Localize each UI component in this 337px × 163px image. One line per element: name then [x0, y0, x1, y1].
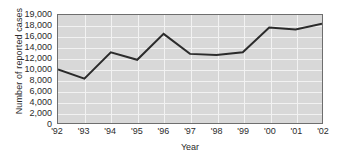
y-axis-tick-label: 8,000 — [0, 76, 52, 85]
line-chart: Number of reported cases 19,00018,00016,… — [0, 0, 337, 163]
x-axis-title: Year — [57, 142, 323, 153]
x-axis-tick-label: '02 — [306, 126, 337, 137]
y-axis-tick-label: 4,000 — [0, 98, 52, 107]
y-axis-tick-label: 16,000 — [0, 32, 52, 41]
x-axis-tick-labels: '92'93'94'95'96'97'98'99'00'01'02 — [57, 126, 323, 140]
y-axis-tick-label: 2,000 — [0, 109, 52, 118]
y-axis-tick-label: 6,000 — [0, 87, 52, 96]
y-axis-tick-label: 12,000 — [0, 54, 52, 63]
series-line — [58, 15, 322, 123]
y-axis-tick-label: 10,000 — [0, 65, 52, 74]
y-axis-tick-label: 19,000 — [0, 10, 52, 19]
y-axis-tick-label: 18,000 — [0, 21, 52, 30]
plot-area — [57, 14, 323, 124]
y-axis-tick-label: 14,000 — [0, 43, 52, 52]
y-axis-tick-labels: 19,00018,00016,00014,00012,00010,0008,00… — [0, 14, 54, 124]
